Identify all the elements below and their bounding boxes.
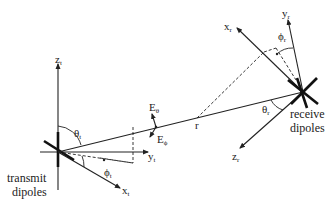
e-phi-label: Eϕ	[157, 133, 168, 147]
field-point	[155, 126, 158, 129]
phi-t-marker	[103, 159, 105, 161]
antenna-geometry-diagram: zt yt xt θt ϕt transmit dipoles Eθ Eϕ r …	[0, 0, 332, 208]
transmit-z-label: zt	[55, 53, 62, 67]
diagram-svg: zt yt xt θt ϕt transmit dipoles Eθ Eϕ r …	[0, 0, 332, 208]
receive-x-axis	[237, 28, 303, 92]
transmit-label-line2: dipoles	[12, 185, 47, 199]
phi-r-marker	[276, 53, 278, 55]
receive-z-label: zr	[232, 150, 240, 164]
e-theta-label: Eθ	[149, 101, 160, 115]
receive-projection-top	[264, 48, 276, 52]
phi-r-label: ϕr	[278, 30, 287, 44]
receive-projection-line	[197, 52, 264, 118]
transmit-y-label: yt	[148, 150, 156, 164]
theta-r-label: θr	[262, 103, 270, 117]
transmit-x-label: xt	[122, 184, 130, 198]
transmit-label-line1: transmit	[7, 171, 47, 185]
distance-r-label: r	[195, 119, 199, 131]
theta-t-label: θt	[74, 127, 81, 141]
e-theta-arrow	[152, 114, 156, 127]
phi-t-arc	[82, 156, 84, 167]
theta-r-arc	[271, 100, 283, 110]
receive-label-line2: dipoles	[290, 121, 325, 135]
receive-label-line1: receive	[290, 107, 325, 121]
receive-x-label: xr	[224, 20, 233, 34]
phi-t-label: ϕt	[104, 166, 112, 180]
receive-y-label: yr	[282, 7, 291, 21]
link-line-r	[58, 92, 303, 152]
transmit-x-axis	[58, 152, 120, 188]
